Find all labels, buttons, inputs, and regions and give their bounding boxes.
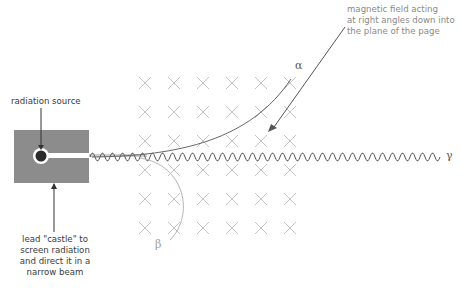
lead-castle-label-line: narrow beam bbox=[14, 267, 96, 278]
field-cross-icon bbox=[284, 222, 296, 234]
field-cross-icon bbox=[168, 164, 180, 176]
field-cross-icon bbox=[197, 106, 209, 118]
gamma-label: γ bbox=[446, 149, 453, 162]
lead-castle-label: lead "castle" to screen radiation and di… bbox=[14, 234, 96, 278]
radiation-source-label: radiation source bbox=[11, 96, 81, 107]
field-cross-icon bbox=[168, 193, 180, 205]
field-cross-icon bbox=[284, 164, 296, 176]
castle-pointer-arrowhead bbox=[51, 183, 57, 189]
lead-castle-label-line: lead "castle" to bbox=[14, 234, 96, 245]
field-cross-icon bbox=[139, 193, 151, 205]
field-cross-icon bbox=[255, 193, 267, 205]
field-cross-icon bbox=[168, 77, 180, 89]
field-cross-icon bbox=[284, 135, 296, 147]
magnetic-field-label-line: magnetic field acting bbox=[347, 4, 455, 15]
field-cross-icon bbox=[139, 106, 151, 118]
field-cross-icon bbox=[284, 193, 296, 205]
field-cross-icon bbox=[197, 222, 209, 234]
field-cross-icon bbox=[139, 77, 151, 89]
field-cross-icon bbox=[226, 164, 238, 176]
field-cross-icon bbox=[284, 106, 296, 118]
field-cross-icon bbox=[197, 164, 209, 176]
magnetic-field-label-line: at right angles down into bbox=[347, 15, 455, 26]
magnetic-field-crosses bbox=[139, 77, 296, 234]
field-cross-icon bbox=[226, 77, 238, 89]
alpha-label: α bbox=[295, 59, 302, 72]
field-cross-icon bbox=[226, 222, 238, 234]
field-cross-icon bbox=[255, 222, 267, 234]
lead-castle-label-line: screen radiation bbox=[14, 245, 96, 256]
field-cross-icon bbox=[168, 106, 180, 118]
field-cross-icon bbox=[197, 193, 209, 205]
magnetic-field-label: magnetic field acting at right angles do… bbox=[347, 4, 455, 37]
field-cross-icon bbox=[255, 164, 267, 176]
field-cross-icon bbox=[226, 135, 238, 147]
alpha-particle-path bbox=[92, 79, 291, 157]
beta-label: β bbox=[155, 238, 161, 251]
beam-channel bbox=[44, 153, 90, 158]
field-cross-icon bbox=[139, 135, 151, 147]
field-cross-icon bbox=[226, 193, 238, 205]
lead-castle-label-line: and direct it in a bbox=[14, 256, 96, 267]
field-cross-icon bbox=[255, 77, 267, 89]
field-cross-icon bbox=[255, 135, 267, 147]
magnetic-field-label-line: the plane of the page bbox=[347, 26, 455, 37]
field-cross-icon bbox=[168, 135, 180, 147]
field-cross-icon bbox=[226, 106, 238, 118]
beta-particle-path bbox=[140, 158, 183, 240]
field-cross-icon bbox=[139, 164, 151, 176]
field-cross-icon bbox=[197, 77, 209, 89]
field-cross-icon bbox=[139, 222, 151, 234]
radiation-source-icon bbox=[36, 151, 47, 162]
field-cross-icon bbox=[284, 77, 296, 89]
